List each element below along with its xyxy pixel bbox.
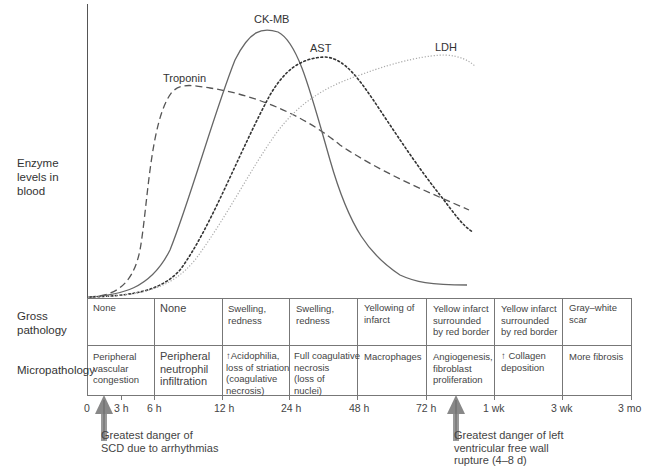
cell-line: necrosis) <box>226 385 289 397</box>
micro-cell: Full coagulative necrosis (loss of nucle… <box>294 350 360 396</box>
tick-24h: 24 h <box>281 402 301 414</box>
cell-line: None <box>93 302 116 314</box>
cell-line: surrounded <box>433 315 490 327</box>
annotation-rupture: Greatest danger of left ventricular free… <box>454 429 563 467</box>
gross-cell: None <box>160 302 186 315</box>
cell-line: (loss of <box>294 373 360 385</box>
tick-12h: 12 h <box>214 402 234 414</box>
cell-line: redness <box>296 315 334 327</box>
note-line: SCD due to arrhythmias <box>101 442 218 455</box>
cell-line: proliferation <box>433 374 493 386</box>
cell-line: None <box>160 302 186 315</box>
cell-line: nuclei) <box>294 385 360 397</box>
label-troponin: Troponin <box>163 72 206 84</box>
cell-line: Full coagulative <box>294 350 360 362</box>
cell-line: Peripheral <box>93 351 139 363</box>
tick-72h: 72 h <box>416 402 436 414</box>
micro-cell: Peripheral vascular congestion <box>93 351 139 386</box>
micro-cell: More fibrosis <box>569 351 623 363</box>
gross-cell: None <box>93 302 116 314</box>
tick-0: 0 <box>84 402 90 414</box>
label-ast: AST <box>310 42 331 54</box>
curve-ast <box>89 57 473 297</box>
cell-line: necrosis <box>294 362 360 374</box>
note-line: rupture (4–8 d) <box>454 454 563 467</box>
cell-line: Yellowing of <box>364 302 414 314</box>
micro-cell: ↑ Collagen deposition <box>501 350 546 373</box>
gross-cell: Yellowing of infarct <box>364 302 414 325</box>
row-label-gross: Gross pathology <box>17 309 67 337</box>
curve-ckmb <box>89 30 467 297</box>
cell-line: by red border <box>433 326 490 338</box>
micro-cell: Peripheral neutrophil infiltration <box>160 350 210 388</box>
gross-cell: Swelling, redness <box>228 303 266 326</box>
tick-3h: 3 h <box>114 402 129 414</box>
gross-cell: Yellow infarct surrounded by red border <box>433 303 490 338</box>
cell-line: Swelling, <box>228 303 266 315</box>
cell-line: congestion <box>93 374 139 386</box>
cell-line: infarct <box>364 314 414 326</box>
cell-line: loss of striation <box>226 362 289 374</box>
row-label-line: pathology <box>17 323 67 337</box>
cell-line: vascular <box>93 363 139 375</box>
annotation-scd: Greatest danger of SCD due to arrhythmia… <box>101 429 218 454</box>
cell-line: surrounded <box>501 315 558 327</box>
note-line: Greatest danger of left <box>454 429 563 442</box>
cell-line: redness <box>228 315 266 327</box>
cell-line: Angiogenesis, <box>433 351 493 363</box>
cell-line: Yellow infarct <box>433 303 490 315</box>
cell-line: More fibrosis <box>569 351 623 363</box>
gross-cell: Yellow infarct surrounded by red border <box>501 303 558 338</box>
micro-cell: Angiogenesis, fibroblast proliferation <box>433 351 493 386</box>
gross-cell: Swelling, redness <box>296 303 334 326</box>
cell-line: ↑Acidophilia, <box>226 350 289 362</box>
curve-troponin <box>89 86 469 298</box>
cell-line: by red border <box>501 326 558 338</box>
cell-line: neutrophil <box>160 363 210 376</box>
note-line: Greatest danger of <box>101 429 218 442</box>
micro-cell: Macrophages <box>364 351 422 363</box>
cell-line: Swelling, <box>296 303 334 315</box>
cell-line: Yellow infarct <box>501 303 558 315</box>
curve-ldh <box>89 55 475 297</box>
label-ldh: LDH <box>435 41 457 53</box>
tick-3mo: 3 mo <box>618 402 641 414</box>
cell-line: scar <box>569 314 617 326</box>
cell-line: ↑ Collagen <box>501 350 546 362</box>
cell-line: fibroblast <box>433 363 493 375</box>
cell-line: (coagulative <box>226 373 289 385</box>
cell-line: infiltration <box>160 375 210 388</box>
row-label-micro: Micropathology <box>17 363 95 377</box>
tick-48h: 48 h <box>349 402 369 414</box>
tick-6h: 6 h <box>147 402 162 414</box>
cell-line: Peripheral <box>160 350 210 363</box>
cell-line: Macrophages <box>364 351 422 363</box>
cell-line: deposition <box>501 362 546 374</box>
cell-line: Gray–white <box>569 302 617 314</box>
tick-3wk: 3 wk <box>551 402 573 414</box>
note-line: ventricular free wall <box>454 442 563 455</box>
gross-cell: Gray–white scar <box>569 302 617 325</box>
row-label-line: Gross <box>17 309 67 323</box>
label-ckmb: CK-MB <box>254 13 289 25</box>
micro-cell: ↑Acidophilia, loss of striation (coagula… <box>226 350 289 396</box>
tick-1wk: 1 wk <box>483 402 505 414</box>
